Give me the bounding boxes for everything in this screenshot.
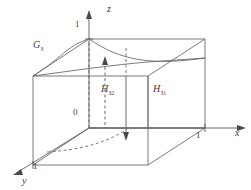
region-label-g3: G3	[33, 40, 43, 52]
axis-label-y: y	[22, 176, 26, 186]
region-label-h31-subscript: 31	[160, 89, 166, 96]
region-label-g3-subscript: 3	[40, 45, 43, 52]
region-label-h32-subscript: 32	[108, 89, 114, 96]
region-label-h32: H32	[101, 84, 114, 96]
h32-down-arrowhead	[123, 132, 129, 141]
figure-container: z x y 1 1 1 0 G3 H32 H31	[0, 0, 251, 190]
bottom-projection-curve	[47, 128, 128, 152]
h32-up-arrowhead	[102, 56, 108, 65]
axis-tick-label-z: 1	[75, 20, 80, 29]
axis-tick-label-y: 1	[33, 162, 38, 171]
cube-diagram-svg	[0, 0, 251, 190]
region-label-h31: H31	[153, 84, 166, 96]
cube-edge-top-right	[148, 39, 205, 76]
axis-z-arrowhead	[86, 10, 92, 19]
origin-label: 0	[73, 108, 78, 117]
axis-label-x: x	[235, 128, 239, 138]
axis-label-z: z	[107, 4, 111, 14]
axis-tick-label-x: 1	[196, 131, 201, 140]
